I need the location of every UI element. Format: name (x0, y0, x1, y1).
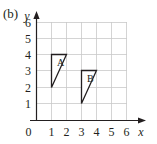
triangle-a-label: A (57, 57, 65, 68)
y-tick-label-2: 2 (25, 81, 31, 95)
coordinate-plane-svg: 6 5 4 3 2 1 0 1 2 3 4 5 6 y x A B (0, 0, 157, 144)
x-axis (30, 117, 146, 123)
triangle-b-label: B (87, 73, 94, 84)
y-tick-label-1: 1 (25, 97, 31, 111)
x-tick-label-5: 5 (109, 125, 115, 139)
y-axis-tick-labels: 6 5 4 3 2 1 (25, 16, 31, 111)
x-axis-tick-labels: 0 1 2 3 4 5 6 (26, 125, 130, 139)
y-axis-label: y (23, 9, 30, 23)
y-tick-label-5: 5 (25, 32, 31, 46)
x-axis-label: x (137, 125, 144, 139)
x-tick-label-0: 0 (26, 125, 32, 139)
x-tick-label-6: 6 (124, 125, 130, 139)
y-tick-label-4: 4 (25, 48, 31, 62)
y-axis (33, 11, 39, 121)
x-axis-arrowhead (138, 117, 146, 123)
y-axis-arrowhead (33, 11, 39, 19)
x-tick-label-3: 3 (79, 125, 85, 139)
x-tick-label-4: 4 (94, 125, 100, 139)
x-tick-label-2: 2 (64, 125, 70, 139)
y-tick-label-3: 3 (25, 64, 31, 78)
x-tick-label-1: 1 (49, 125, 55, 139)
figure-panel: (b) 6 5 4 (0, 0, 157, 144)
